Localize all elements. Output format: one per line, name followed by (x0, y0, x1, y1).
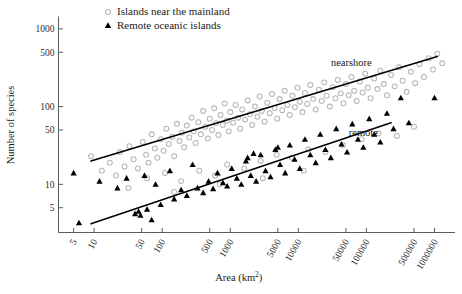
data-point-remote (267, 174, 273, 180)
data-point-remote (360, 144, 366, 150)
trend-line-remote (91, 123, 391, 224)
data-point-nearshore (341, 101, 346, 106)
data-point-remote (338, 141, 344, 147)
data-point-nearshore (274, 152, 279, 157)
y-tick-label: 500 (40, 48, 55, 58)
data-point-remote (277, 161, 283, 167)
data-point-nearshore (378, 68, 383, 73)
data-point-nearshore (164, 126, 169, 131)
data-point-remote (184, 192, 190, 198)
data-point-nearshore (152, 146, 157, 151)
x-axis-title: Area (km2) (215, 270, 263, 285)
data-point-nearshore (280, 108, 285, 113)
data-point-nearshore (228, 110, 233, 115)
data-point-remote (141, 172, 147, 178)
data-point-nearshore (212, 106, 217, 111)
data-point-remote (250, 150, 256, 156)
data-point-nearshore (297, 99, 302, 104)
annotation-remote: remote (349, 127, 378, 138)
data-point-remote (200, 190, 206, 196)
data-point-nearshore (322, 80, 327, 85)
data-point-remote (178, 187, 184, 193)
data-point-remote (322, 146, 328, 152)
data-point-nearshore (255, 114, 260, 119)
data-point-nearshore (389, 73, 394, 78)
data-point-nearshore (216, 133, 221, 138)
data-point-remote (76, 220, 82, 226)
data-point-remote (238, 181, 244, 187)
data-point-nearshore (400, 78, 405, 83)
data-point-nearshore (218, 113, 223, 118)
data-point-remote (245, 155, 251, 161)
data-point-nearshore (262, 119, 267, 124)
species-area-chart: 5105010050010005000100005000010000050000… (0, 0, 462, 294)
data-point-nearshore (131, 157, 136, 162)
data-point-nearshore (270, 92, 275, 97)
data-point-nearshore (166, 142, 171, 147)
data-point-nearshore (394, 133, 399, 138)
y-tick-group (59, 29, 64, 208)
data-point-remote (158, 201, 164, 207)
legend-label: Remote oceanic islands (117, 19, 221, 31)
data-point-nearshore (172, 189, 177, 194)
data-point-nearshore (346, 93, 351, 98)
data-point-nearshore (267, 111, 272, 116)
y-axis-title: Number of species (5, 86, 16, 165)
data-point-nearshore (197, 168, 202, 173)
data-point-nearshore (324, 93, 329, 98)
data-point-nearshore (126, 185, 131, 190)
data-point-nearshore (240, 107, 245, 112)
data-point-nearshore (285, 102, 290, 107)
x-tick-label: 5 (68, 237, 79, 246)
data-point-nearshore (135, 166, 140, 171)
x-tick-labels: 5105010050010005000100005000010000050000… (68, 237, 440, 271)
data-point-remote (313, 160, 319, 166)
data-point-nearshore (431, 67, 436, 72)
data-point-remote (384, 110, 390, 116)
data-point-nearshore (250, 123, 255, 128)
data-point-nearshore (182, 145, 187, 150)
x-tick-group (74, 228, 435, 233)
data-point-remote (149, 217, 155, 223)
data-point-nearshore (305, 102, 310, 107)
data-point-nearshore (375, 87, 380, 92)
data-point-remote (144, 206, 150, 212)
data-point-remote (258, 152, 264, 158)
data-point-remote (390, 126, 396, 132)
data-point-remote (123, 175, 129, 181)
data-point-nearshore (89, 154, 94, 159)
data-point-nearshore (290, 93, 295, 98)
data-point-nearshore (245, 98, 250, 103)
data-point-remote (297, 165, 303, 171)
data-point-remote (253, 178, 259, 184)
x-axis-title-close: ) (259, 272, 263, 284)
data-point-remote (262, 168, 268, 174)
data-point-remote (167, 168, 173, 174)
data-point-nearshore (172, 154, 177, 159)
data-point-nearshore (210, 128, 215, 133)
data-point-remote (248, 172, 254, 178)
data-point-remote (377, 139, 383, 145)
data-point-nearshore (252, 104, 257, 109)
data-point-nearshore (146, 160, 151, 165)
data-point-nearshore (179, 179, 184, 184)
data-point-nearshore (107, 160, 112, 165)
x-tick-label: 5000 (265, 237, 283, 259)
series-remote-points (71, 95, 438, 226)
annotation-nearshore: nearshore (331, 57, 372, 68)
data-point-nearshore (413, 81, 418, 86)
data-point-nearshore (177, 139, 182, 144)
data-point-nearshore (233, 102, 238, 107)
data-point-remote (275, 144, 281, 150)
y-tick-label: 50 (45, 125, 55, 135)
data-point-remote (366, 116, 372, 122)
data-point-nearshore (308, 82, 313, 87)
data-point-nearshore (243, 117, 248, 122)
data-point-nearshore (287, 113, 292, 118)
data-point-nearshore (260, 176, 265, 181)
y-tick-label: 10 (45, 180, 55, 190)
data-point-nearshore (207, 116, 212, 121)
data-point-nearshore (311, 97, 316, 102)
x-tick-label: 500 (199, 237, 215, 255)
data-point-remote (96, 178, 102, 184)
